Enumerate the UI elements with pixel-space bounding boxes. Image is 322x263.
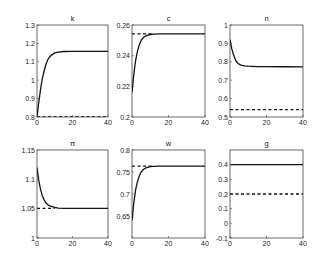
y-tick-label: 0.2	[120, 114, 130, 121]
x-tick-label: 0	[35, 119, 39, 126]
x-tick-label: 40	[201, 240, 209, 247]
y-tick-label: 0.8	[25, 114, 35, 121]
x-tick-label: 0	[228, 240, 232, 247]
x-tick-label: 0	[35, 240, 39, 247]
x-tick-label: 20	[165, 119, 173, 126]
y-tick-label: 1	[31, 77, 35, 84]
y-tick-label: 0.8	[218, 58, 228, 65]
y-tick-label: 0.7	[120, 191, 130, 198]
x-tick-label: 20	[263, 119, 271, 126]
y-tick-label: 0.75	[116, 169, 130, 176]
y-tick-label: 0.4	[218, 161, 228, 168]
subplot-title: π	[70, 139, 75, 148]
y-tick-label: 1.2	[25, 40, 35, 47]
subplot-title: g	[264, 139, 268, 148]
axes-box	[37, 150, 108, 238]
axes-box	[37, 25, 108, 117]
x-tick-label: 40	[104, 119, 112, 126]
y-tick-label: 0.9	[218, 40, 228, 47]
y-tick-label: 1.05	[21, 205, 35, 212]
y-tick-label: 0.24	[116, 52, 130, 59]
subplot-c: c 020400.20.220.240.26	[116, 14, 209, 126]
subplot-n: n 020400.50.60.70.80.91	[218, 14, 307, 126]
x-tick-label: 0	[130, 240, 134, 247]
x-tick-label: 40	[299, 119, 307, 126]
y-tick-label: 0.65	[116, 213, 130, 220]
x-tick-label: 20	[165, 240, 173, 247]
subplot-k: k 020400.80.911.11.21.3	[25, 14, 112, 126]
y-tick-label: 0.22	[116, 83, 130, 90]
subplot-pi: π 0204011.051.11.15	[21, 139, 112, 247]
subplot-title: k	[71, 14, 75, 23]
subplot-title: c	[167, 14, 171, 23]
x-tick-label: 20	[69, 119, 77, 126]
subplot-g: g 02040-0.100.10.20.30.4	[216, 139, 307, 247]
y-tick-label: 0.2	[218, 191, 228, 198]
y-tick-label: 1	[224, 22, 228, 29]
y-tick-label: 1.1	[25, 176, 35, 183]
y-tick-label: -0.1	[216, 235, 228, 242]
axes-box	[230, 25, 303, 117]
y-tick-label: 0.5	[218, 114, 228, 121]
subplot-w: w 020400.650.70.750.8	[116, 139, 209, 247]
x-tick-label: 40	[201, 119, 209, 126]
y-tick-label: 0.1	[218, 205, 228, 212]
y-tick-label: 0.7	[218, 77, 228, 84]
y-tick-label: 1	[31, 235, 35, 242]
subplot-title: w	[165, 139, 172, 148]
x-tick-label: 0	[130, 119, 134, 126]
x-tick-label: 40	[104, 240, 112, 247]
x-tick-label: 20	[263, 240, 271, 247]
y-tick-label: 0.3	[218, 176, 228, 183]
y-tick-label: 1.1	[25, 58, 35, 65]
x-tick-label: 0	[228, 119, 232, 126]
y-tick-label: 0.8	[120, 147, 130, 154]
y-tick-label: 0.6	[218, 95, 228, 102]
figure: k 020400.80.911.11.21.3 c 020400.20.220.…	[0, 0, 322, 263]
y-tick-label: 1.15	[21, 147, 35, 154]
x-tick-label: 20	[69, 240, 77, 247]
y-tick-label: 0.9	[25, 95, 35, 102]
subplot-title: n	[264, 14, 268, 23]
x-tick-label: 40	[299, 240, 307, 247]
y-tick-label: 0.26	[116, 22, 130, 29]
axes-box	[132, 150, 205, 238]
y-tick-label: 1.3	[25, 22, 35, 29]
y-tick-label: 0	[224, 220, 228, 227]
